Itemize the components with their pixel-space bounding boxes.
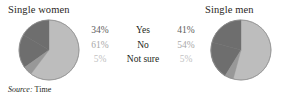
- legend-label-yes: Yes: [115, 23, 171, 38]
- source-value: Time: [35, 85, 52, 94]
- pie-chart-single-men: [210, 19, 272, 81]
- source-label: Source:: [8, 85, 33, 94]
- legend-value-men-yes: 41%: [171, 23, 201, 38]
- legend-row-no: 61% No 54%: [85, 38, 201, 53]
- legend-row-not-sure: 5% Not sure 5%: [85, 52, 201, 67]
- legend-value-women-no: 61%: [85, 38, 115, 53]
- legend-table: 34% Yes 41% 61% No 54% 5% Not sure 5%: [85, 23, 201, 67]
- pie-chart-figure: Single women Single men 34%: [0, 0, 291, 101]
- chart-title-single-women: Single women: [8, 4, 70, 16]
- source-note: Source: Time: [8, 85, 51, 95]
- legend-value-men-not-sure: 5%: [171, 52, 201, 67]
- legend-value-women-not-sure: 5%: [85, 52, 115, 67]
- pie-chart-single-women: [18, 19, 80, 81]
- legend-label-no: No: [115, 38, 171, 53]
- legend-label-not-sure: Not sure: [115, 52, 171, 67]
- legend-value-men-no: 54%: [171, 38, 201, 53]
- chart-title-single-men: Single men: [205, 4, 254, 16]
- legend-value-women-yes: 34%: [85, 23, 115, 38]
- legend-row-yes: 34% Yes 41%: [85, 23, 201, 38]
